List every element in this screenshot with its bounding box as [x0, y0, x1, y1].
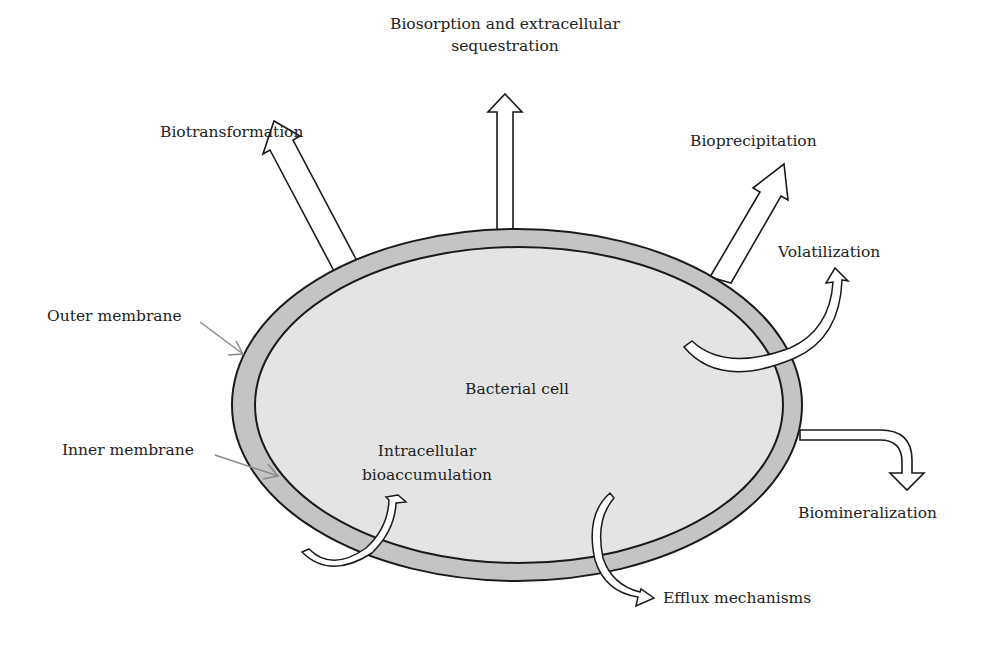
pointer-outer-membrane — [200, 322, 243, 355]
arrow-biosorption — [488, 94, 522, 232]
label-bacterial-cell: Bacterial cell — [465, 380, 569, 398]
label-biomineralization: Biomineralization — [798, 504, 937, 522]
bacterial-cell — [232, 229, 802, 581]
label-biosorption-line2: sequestration — [451, 37, 559, 55]
label-biosorption-line1: Biosorption and extracellular — [390, 15, 621, 33]
label-bioprecipitation: Bioprecipitation — [690, 132, 817, 150]
inner-membrane — [255, 247, 783, 563]
arrow-biomineralization — [800, 430, 924, 490]
label-biotransformation: Biotransformation — [160, 123, 303, 141]
arrow-biotransformation — [263, 121, 357, 271]
label-intracellular-line2: bioaccumulation — [362, 466, 492, 484]
arrow-bioprecipitation — [710, 164, 788, 283]
label-inner-membrane: Inner membrane — [62, 441, 194, 459]
bacterial-metal-interaction-diagram: Biosorption and extracellular sequestrat… — [0, 0, 1003, 646]
label-efflux: Efflux mechanisms — [663, 589, 811, 607]
label-volatilization: Volatilization — [777, 243, 880, 261]
label-intracellular-line1: Intracellular — [378, 442, 477, 460]
label-outer-membrane: Outer membrane — [47, 307, 182, 325]
